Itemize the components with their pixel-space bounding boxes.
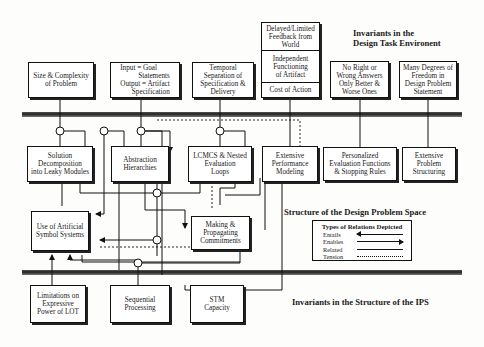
- box-line: Hierarchies: [123, 164, 157, 172]
- box-line: Propagating: [200, 229, 241, 237]
- box-size-complexity: Size & Complexityof Problem: [28, 62, 94, 98]
- box-input-output: Input = GoalStatementsOutput = ArtifactS…: [110, 62, 180, 98]
- box-line: Design Problem: [403, 80, 453, 88]
- box-line: Commitments: [200, 237, 241, 245]
- box-line: Specification: [120, 88, 170, 96]
- box-line: Delivery: [200, 88, 245, 96]
- legend: Types of Relations Depicted Entails Enab…: [312, 220, 412, 261]
- legend-label: Related: [317, 246, 357, 253]
- dotted-line-icon: [357, 256, 403, 257]
- box-making-propagating-commitments: Making &PropagatingCommitments: [191, 216, 250, 250]
- box-line: Many Degrees of: [403, 64, 453, 72]
- box-personalized-evaluation: PersonalizedEvaluation Functions& Stoppi…: [323, 147, 397, 181]
- box-line: Worse Ones: [336, 88, 382, 96]
- box-performance-modeling: ExtensivePerformanceModeling: [262, 146, 318, 182]
- box-line: Feedback from: [269, 33, 312, 41]
- box-line: Structuring: [413, 168, 445, 176]
- box-solution-decomposition: SolutionDecompositioninto Leaky Modules: [27, 146, 93, 182]
- box-line: Solution: [31, 152, 89, 160]
- box-line: Statements: [120, 72, 170, 80]
- solid-line-icon: [357, 249, 403, 250]
- box-line: Processing: [124, 304, 155, 312]
- legend-label: Enables: [317, 238, 357, 245]
- box-line: Independent: [273, 55, 309, 63]
- box-temporal-separation: TemporalSeparation ofSpecification &Deli…: [192, 62, 254, 98]
- box-line: Use of Artificial: [36, 223, 84, 231]
- box-problem-structuring: ExtensiveProblemStructuring: [402, 147, 456, 181]
- box-line: Cost of Action: [270, 86, 312, 94]
- legend-item-enables: Enables: [317, 238, 407, 246]
- heading-problem-space: Structure of the Design Problem Space: [284, 207, 426, 217]
- cell-independent-functioning: IndependentFunctioningof Artifact: [262, 51, 319, 83]
- box-line: Statement: [403, 88, 453, 96]
- legend-title: Types of Relations Depicted: [317, 223, 407, 230]
- box-line: Sequential: [124, 296, 155, 304]
- box-line: Only Better &: [336, 80, 382, 88]
- box-line: Evaluation Functions: [329, 160, 390, 168]
- box-line: Separation of: [200, 72, 245, 80]
- box-degrees-of-freedom: Many Degrees ofFreedom inDesign ProblemS…: [399, 61, 457, 98]
- box-line: Freedom in: [403, 72, 453, 80]
- box-limitations-lot: Limitations onExpressivePower of LOT: [30, 285, 86, 323]
- legend-item-tension: Tension: [317, 253, 407, 261]
- box-line: & Stopping Rules: [329, 168, 390, 176]
- legend-item-entails: Entails: [317, 230, 407, 238]
- box-feedback-group: Delayed/LimitedFeedback fromWorld Indepe…: [261, 22, 320, 98]
- legend-label: Tension: [317, 253, 357, 260]
- box-line: Power of LOT: [37, 308, 79, 316]
- heading-line: Design Task Environent: [353, 38, 441, 48]
- box-line: Problem: [413, 160, 445, 168]
- box-line: of Problem: [33, 80, 89, 88]
- box-line: Limitations on: [37, 292, 79, 300]
- box-line: Modeling: [272, 168, 309, 176]
- box-line: Expressive: [37, 300, 79, 308]
- box-line: of Artifact: [276, 71, 306, 79]
- junction-node: [56, 127, 64, 135]
- box-abstraction-hierarchies: AbstractionHierarchies: [111, 146, 169, 182]
- box-artificial-symbol-systems: Use of ArtificialSymbol Systems: [31, 211, 89, 251]
- box-line: Output = Artifact: [120, 80, 170, 88]
- box-line: No Right or: [336, 64, 382, 72]
- box-line: LCMCS & Nested: [193, 152, 247, 160]
- box-line: Specification &: [200, 80, 245, 88]
- box-line: Functioning: [273, 63, 308, 71]
- box-line: Abstraction: [123, 156, 157, 164]
- box-line: World: [282, 41, 300, 49]
- box-line: Extensive: [413, 152, 445, 160]
- box-line: Decomposition: [31, 160, 89, 168]
- box-lcmcs-evaluation-loops: LCMCS & NestedEvaluationLoops: [188, 146, 252, 182]
- box-no-right-answers: No Right orWrong AnswersOnly Better &Wor…: [330, 61, 389, 98]
- box-line: Performance: [272, 160, 309, 168]
- box-stm-capacity: STMCapacity: [190, 285, 244, 323]
- heading-line: Invariants in the: [353, 28, 441, 38]
- box-line: Evaluation: [193, 160, 247, 168]
- heading-task-environment: Invariants in the Design Task Environent: [353, 28, 441, 48]
- box-line: Extensive: [272, 152, 309, 160]
- cell-delayed-feedback: Delayed/LimitedFeedback fromWorld: [262, 23, 319, 51]
- box-line: Symbol Systems: [36, 231, 84, 239]
- box-line: Capacity: [204, 304, 230, 312]
- box-line: into Leaky Modules: [31, 168, 89, 176]
- box-line: Personalized: [329, 152, 390, 160]
- box-line: Loops: [193, 168, 247, 176]
- legend-label: Entails: [317, 231, 357, 238]
- box-line: Input = Goal: [120, 64, 170, 72]
- cell-cost-of-action: Cost of Action: [262, 83, 319, 97]
- legend-item-related: Related: [317, 246, 407, 254]
- heading-ips: Invariants in the Structure of the IPS: [292, 297, 429, 307]
- box-line: Making &: [200, 221, 241, 229]
- box-line: Size & Complexity: [33, 72, 89, 80]
- box-sequential-processing: SequentialProcessing: [110, 285, 170, 323]
- box-line: Delayed/Limited: [266, 25, 315, 33]
- arrow-left-icon: [357, 234, 403, 235]
- arrow-right-icon: [357, 241, 403, 242]
- box-line: Wrong Answers: [336, 72, 382, 80]
- box-line: Temporal: [200, 64, 245, 72]
- box-line: STM: [204, 296, 230, 304]
